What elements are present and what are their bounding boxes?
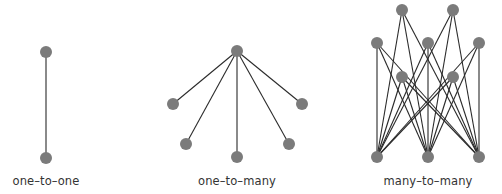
node bbox=[296, 98, 308, 110]
many-to-many-label: many–to–many bbox=[384, 174, 473, 188]
node bbox=[473, 37, 485, 49]
node bbox=[231, 45, 243, 57]
node bbox=[422, 151, 434, 163]
node bbox=[396, 4, 408, 16]
node bbox=[180, 138, 192, 150]
node bbox=[40, 152, 52, 164]
node bbox=[473, 151, 485, 163]
edge bbox=[453, 77, 479, 157]
edge bbox=[453, 10, 479, 157]
edge bbox=[428, 77, 453, 157]
node bbox=[447, 71, 459, 83]
one-to-one-label: one–to–one bbox=[13, 174, 80, 188]
edge bbox=[186, 51, 237, 144]
node bbox=[447, 4, 459, 16]
edge bbox=[428, 10, 453, 157]
node bbox=[231, 151, 243, 163]
node bbox=[167, 98, 179, 110]
node bbox=[371, 37, 383, 49]
one-to-many-diagram bbox=[167, 45, 308, 163]
node bbox=[422, 37, 434, 49]
node bbox=[283, 138, 295, 150]
edge bbox=[173, 51, 237, 104]
one-to-many-label: one–to–many bbox=[198, 174, 276, 188]
one-to-one-diagram bbox=[40, 46, 52, 164]
edge bbox=[237, 51, 289, 144]
relationship-diagrams bbox=[0, 0, 502, 194]
edge bbox=[377, 10, 453, 157]
many-to-many-diagram bbox=[371, 4, 485, 163]
node bbox=[40, 46, 52, 58]
node bbox=[371, 151, 383, 163]
node bbox=[396, 71, 408, 83]
edge bbox=[237, 51, 302, 104]
